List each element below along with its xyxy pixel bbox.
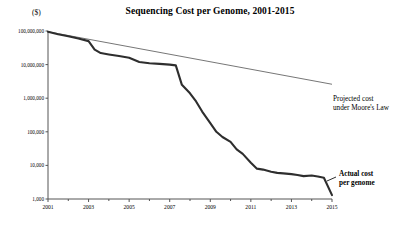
actual-cost-annotation-line1: Actual cost xyxy=(339,170,373,178)
x-axis-tick-label: 2001 xyxy=(42,204,53,210)
projected-cost-annotation: Projected cost under Moore's Law xyxy=(333,95,389,113)
chart-page: Sequencing Cost per Genome, 2001-2015 ($… xyxy=(0,0,408,232)
actual-cost-line xyxy=(48,32,332,195)
y-axis-tick-label: 10,000 xyxy=(30,162,44,168)
y-axis-tick-label: 100,000 xyxy=(27,129,44,135)
actual-cost-annotation-line2: per genome xyxy=(339,179,375,188)
axes-group xyxy=(46,31,333,202)
y-axis-tick-label: 1,000,000 xyxy=(23,95,44,101)
x-axis-tick-label: 2003 xyxy=(83,204,94,210)
y-axis-tick-label: 10,000,000 xyxy=(21,62,44,68)
actual-cost-leader-line xyxy=(327,177,336,181)
annotation-leader-lines xyxy=(327,177,336,181)
x-axis-tick-label: 2007 xyxy=(164,204,175,210)
x-axis-tick-label: 2005 xyxy=(124,204,135,210)
x-axis-tick-label: 2013 xyxy=(286,204,297,210)
actual-cost-annotation: Actual cost per genome xyxy=(339,170,375,188)
projected-cost-annotation-line2: under Moore's Law xyxy=(333,104,389,113)
y-axis-tick-label: 100,000,000 xyxy=(18,28,44,34)
x-axis-tick-label: 2009 xyxy=(205,204,216,210)
y-axis-tick-label: 1,000 xyxy=(32,196,44,202)
projected-moores-law-line xyxy=(48,32,332,85)
data-series-group xyxy=(48,32,332,195)
x-axis-tick-label: 2011 xyxy=(245,204,256,210)
projected-cost-annotation-line1: Projected cost xyxy=(333,95,374,103)
x-axis-tick-label: 2015 xyxy=(326,204,337,210)
chart-plot-area xyxy=(0,0,408,232)
